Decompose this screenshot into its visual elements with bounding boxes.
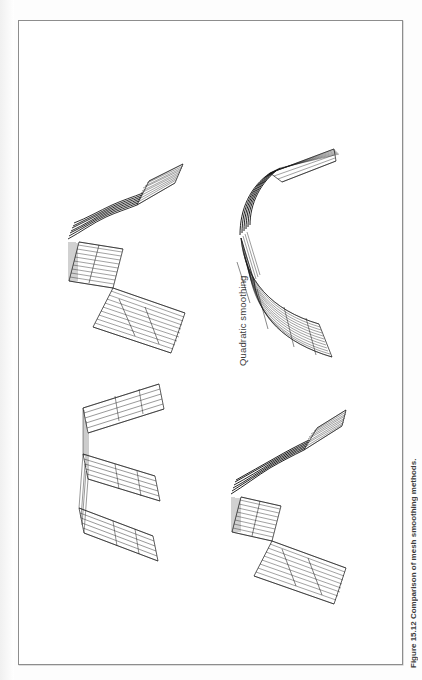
- mesh-quadratic-smoothing: [59, 131, 187, 381]
- panel-cubic-smoothing: Cubic smoothing: [224, 376, 384, 626]
- scan-edge-shading: [0, 0, 14, 680]
- panel-bezier-smoothing: Bezier smoothing: [224, 131, 384, 361]
- mesh-bezier-smoothing: [224, 131, 352, 381]
- panel-original-mesh: Original mesh: [59, 376, 219, 626]
- panel-quadratic-smoothing: Quadratic smoothing: [59, 131, 219, 361]
- scanned-page: Quadratic smoothing: [0, 0, 422, 680]
- figure-frame: Quadratic smoothing: [18, 20, 403, 665]
- mesh-original: [59, 376, 187, 626]
- figure-caption: Figure 15.12 Comparison of mesh smoothin…: [409, 368, 418, 668]
- mesh-cubic-smoothing: [224, 376, 352, 626]
